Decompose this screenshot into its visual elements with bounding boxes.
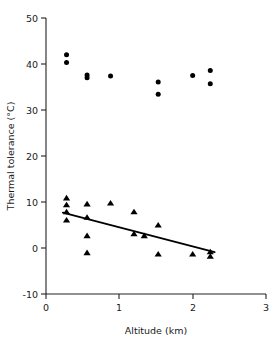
- data-point-circle: [85, 75, 90, 80]
- data-series-layer: [63, 52, 214, 259]
- y-axis-ticks: [41, 18, 46, 294]
- x-axis-title: Altitude (km): [125, 325, 187, 336]
- y-tick-label: 40: [26, 59, 38, 70]
- data-point-triangle: [63, 195, 70, 201]
- data-point-triangle: [63, 217, 70, 223]
- data-point-circle: [156, 79, 161, 84]
- y-tick-label: 0: [32, 243, 38, 254]
- x-tick-label: 3: [263, 302, 269, 313]
- data-point-triangle: [130, 209, 137, 215]
- data-point-triangle: [83, 201, 90, 207]
- x-axis-ticks: [46, 294, 266, 299]
- x-axis-tick-labels: 0 1 2 3: [43, 302, 269, 313]
- data-point-triangle: [155, 222, 162, 228]
- y-axis-title: Thermal tolerance (°C): [5, 102, 16, 212]
- data-point-circle: [64, 52, 69, 57]
- y-tick-label: 10: [26, 197, 38, 208]
- x-tick-label: 1: [116, 302, 122, 313]
- data-point-circle: [108, 73, 113, 78]
- x-tick-label: 0: [43, 302, 49, 313]
- data-point-circle: [64, 60, 69, 65]
- data-point-triangle: [107, 200, 114, 206]
- data-point-triangle: [83, 214, 90, 220]
- data-point-triangle: [83, 233, 90, 239]
- data-point-triangle: [155, 251, 162, 257]
- data-point-triangle: [63, 209, 70, 215]
- series-circles: [64, 52, 213, 97]
- data-point-triangle: [189, 251, 196, 257]
- y-tick-label: 20: [26, 151, 38, 162]
- data-point-circle: [190, 73, 195, 78]
- data-point-triangle: [83, 250, 90, 256]
- x-tick-label: 2: [190, 302, 196, 313]
- data-point-circle: [208, 68, 213, 73]
- y-tick-label: 50: [26, 13, 38, 24]
- series-triangles: [63, 195, 214, 259]
- data-point-circle: [208, 81, 213, 86]
- data-point-circle: [156, 92, 161, 97]
- scatter-plot-svg: 50 40 30 20 10 0 -10 0 1 2 3 Altitude (k…: [0, 0, 277, 350]
- y-tick-label: -10: [22, 289, 38, 300]
- chart-figure: 50 40 30 20 10 0 -10 0 1 2 3 Altitude (k…: [0, 0, 277, 350]
- y-tick-label: 30: [26, 105, 38, 116]
- data-point-triangle: [63, 202, 70, 208]
- y-axis-tick-labels: 50 40 30 20 10 0 -10: [22, 13, 38, 300]
